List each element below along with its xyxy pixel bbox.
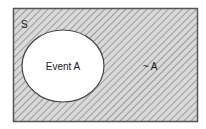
venn-diagram: S Event A ~ A xyxy=(0,0,206,129)
complement-label: ~ A xyxy=(143,61,158,72)
event-a-label: Event A xyxy=(46,61,81,72)
sample-space-label: S xyxy=(21,19,28,30)
